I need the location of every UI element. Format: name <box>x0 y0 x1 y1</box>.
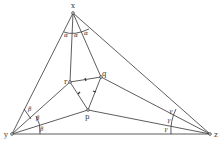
side-xz <box>73 13 210 134</box>
morley-side-qp <box>88 77 101 110</box>
label-z: z <box>214 131 218 139</box>
morley-diagram: x y z r q p α α α β β β γ γ γ <box>0 0 221 145</box>
tick-rq <box>85 78 86 81</box>
point-x <box>72 12 75 15</box>
point-z <box>209 133 212 136</box>
label-y: y <box>3 131 8 139</box>
label-p: p <box>85 113 90 121</box>
trisector-y-p <box>12 110 88 134</box>
beta-2: β <box>35 114 40 122</box>
alpha-2: α <box>74 31 78 38</box>
beta-1: β <box>27 105 32 113</box>
point-p <box>87 109 90 112</box>
diagram-canvas: x y z r q p α α α β β β γ γ γ <box>0 0 221 145</box>
alpha-3: α <box>84 29 88 36</box>
tick-pr <box>78 92 80 94</box>
label-q: q <box>102 70 107 78</box>
beta-3: β <box>39 125 44 133</box>
morley-side-pr <box>70 82 88 110</box>
trisector-x-r <box>70 13 73 82</box>
gamma-1: γ <box>169 107 173 115</box>
trisector-x-q <box>73 13 101 77</box>
point-r <box>69 81 72 84</box>
gamma-2: γ <box>167 116 171 124</box>
label-x: x <box>71 2 75 10</box>
gamma-3: γ <box>164 125 168 133</box>
alpha-1: α <box>64 31 68 38</box>
point-y <box>11 133 14 136</box>
trisector-z-p <box>88 110 210 134</box>
